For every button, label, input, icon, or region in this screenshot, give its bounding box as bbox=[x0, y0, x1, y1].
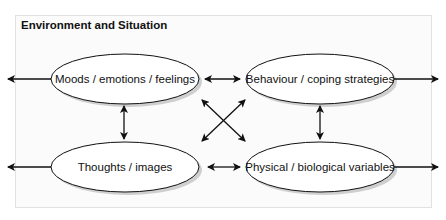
node-label-behaviour: Behaviour / coping strategies bbox=[246, 73, 394, 85]
node-label-moods: Moods / emotions / feelings bbox=[55, 73, 195, 85]
diagram-canvas bbox=[0, 0, 446, 220]
node-label-thoughts: Thoughts / images bbox=[78, 161, 173, 173]
node-label-physical: Physical / biological variables bbox=[245, 161, 395, 173]
